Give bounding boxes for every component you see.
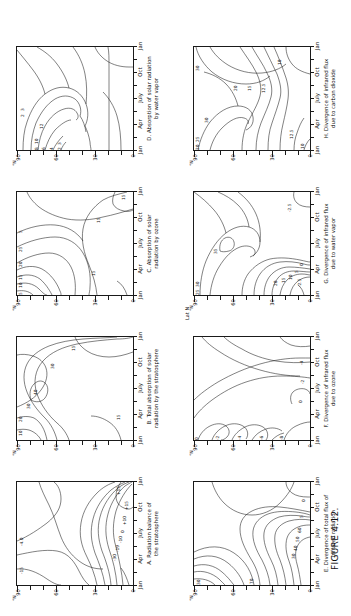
panel-c-xlabel-july: July — [137, 234, 143, 252]
panel-b-contours — [17, 337, 133, 440]
panel-c-title: C. Absorption of solar radiation by ozon… — [146, 190, 160, 297]
panel-g-contour-label-7: 20 — [273, 281, 278, 286]
panel-f-contour-label-7: -4 — [299, 361, 304, 365]
panel-e-plot — [193, 481, 311, 586]
panel-e-xlabel-jan1: Jan — [314, 576, 320, 594]
panel-c-contour-label-6: 15 — [91, 271, 96, 276]
panel-e-contour-label-5: 30 — [196, 580, 201, 585]
panel-f-xlabel-oct: Oct — [314, 353, 320, 371]
panel-e-contour-label-3: 60 — [297, 528, 302, 533]
panel-c-contour-label-7: 15 — [96, 218, 101, 223]
panel-g-contour-label-5: 10 — [288, 275, 293, 280]
panel-h-contour-label-6: 12.5 — [261, 83, 266, 93]
panel-b-title: B. Total absorption of solar radiation b… — [146, 328, 160, 449]
panel-d-contour-label-8: 3 — [20, 108, 25, 111]
panel-c-plot — [16, 191, 134, 296]
panel-b-ylabel-90: 90 — [15, 444, 21, 457]
panel-e-xlabel-apr: Apr — [314, 550, 320, 568]
panel-g-xlabel-oct: Oct — [314, 208, 320, 226]
panel-c-contour-label-1: 10 — [18, 283, 23, 288]
panel-d-contour-label-2: 4 — [49, 147, 54, 150]
panel-d-contour-label-0: 2 — [57, 147, 62, 150]
panel-d-contour-label-3: 6 — [41, 147, 46, 150]
panel-b-contour-label-2: 30 — [26, 404, 31, 409]
panel-h-contour-label-8: 12.5 — [289, 129, 294, 139]
panel-a-ylabel-90: 90 — [15, 589, 21, 602]
panel-e-ylabel-90: 90 — [192, 589, 198, 602]
panel-a-xlabel-july: July — [137, 524, 143, 542]
panel-f-xlabel-july: July — [314, 379, 320, 397]
panel-e-contour-label-0: 30 — [291, 554, 296, 559]
panel-g-contour-label-1: 30 — [195, 282, 200, 287]
panel-g-contour-label-8: -2.5 — [297, 279, 302, 287]
panel-h-contour-label-7: 10 — [277, 60, 282, 65]
panel-g-contour-label-4: 5 — [294, 270, 299, 273]
panel-h-contour-label-9: 10 — [300, 144, 305, 149]
panel-h-contour-label-4: 20 — [233, 86, 238, 91]
panel-a-xlabel-apr: Apr — [137, 550, 143, 568]
panel-a-xlabel-jan1: Jan — [137, 576, 143, 594]
panel-a-contour-label-4: -10 — [118, 536, 123, 543]
panel-f-xlabel-jan2: Jan — [314, 327, 320, 345]
panel-f-contour-label-3: -6 — [259, 436, 264, 440]
panel-b-xlabel-jan1: Jan — [137, 431, 143, 449]
panel-a-contour-label-1: -4.0 — [19, 538, 24, 546]
panel-c-xlabel-apr: Apr — [137, 260, 143, 278]
panel-d-title: D. Absorption of solar radiation by wate… — [146, 36, 160, 161]
panel-c-xlabel-jan2: Jan — [137, 182, 143, 200]
panel-g-ylabel-90: 90 — [192, 299, 198, 312]
panel-h-xlabel-jan1: Jan — [314, 141, 320, 159]
panel-g-xlabel-july: July — [314, 234, 320, 252]
panel-b-contour-label-5: 15 — [116, 415, 121, 420]
panel-e-xlabel-jan2: Jan — [314, 472, 320, 490]
panel-f-contour-label-4: -8 — [279, 436, 284, 440]
panel-g-contour-label-0: 25 — [195, 290, 200, 295]
panel-h-contour-label-3: 30 — [195, 66, 200, 71]
panel-c-xlabel-jan1: Jan — [137, 286, 143, 304]
panel-a-contour-label-2: -30 — [112, 554, 117, 561]
panel-a-title: A. Radiation balance of the stratosphere — [146, 475, 160, 592]
panel-f-contour-label-1: -2 — [215, 436, 220, 440]
panel-g-lat-n-label: Lat N — [184, 307, 190, 320]
panel-h-contour-label-5: 15 — [247, 86, 252, 91]
panel-a-contour-label-0: -15 — [19, 567, 24, 574]
panel-d-xlabel-jan1: Jan — [137, 141, 143, 159]
panel-d-contour-label-7: 2 — [20, 114, 25, 117]
panel-d-contour-label-6: 12 — [39, 124, 44, 129]
panel-e-xlabel-oct: Oct — [314, 498, 320, 516]
panel-h-ylabel-90: 90 — [192, 154, 198, 167]
panel-g-contour-label-9: -2.5 — [287, 204, 292, 212]
panel-b-contour-label-1: 20 — [18, 417, 23, 422]
panel-g-title: G. Divergence of infrared flux due to wa… — [323, 183, 337, 304]
panel-b-contour-label-6: 15 — [71, 346, 76, 351]
panel-d-ylabel-90: 90 — [15, 154, 21, 167]
panel-h-title: H. Divergence of infrared flux due to ca… — [323, 38, 337, 159]
panel-g-contour-label-3: 0 — [299, 263, 304, 266]
figure-rotated-stage: °N 90 60 30 0 — [0, 0, 351, 616]
panel-b-contour-label-4: 30 — [50, 364, 55, 369]
panel-f-plot — [193, 336, 311, 441]
panel-h-xlabel-july: July — [314, 89, 320, 107]
panel-a-plot — [16, 481, 134, 586]
panel-d-xlabel-oct: Oct — [137, 63, 143, 81]
panel-f-title: F. Divergence of infrared flux due to oz… — [323, 328, 337, 449]
panel-c-contour-label-0: 5 — [18, 292, 23, 295]
panel-e-contour-label-1: 40 — [293, 546, 298, 551]
panel-f-contour-label-0: 0 — [194, 437, 199, 440]
panel-f-xlabel-apr: Apr — [314, 405, 320, 423]
panel-g-plot — [193, 191, 311, 296]
figure-page: °N 90 60 30 0 — [0, 0, 351, 616]
panel-f-contours — [194, 337, 310, 440]
panel-b-xlabel-july: July — [137, 379, 143, 397]
panel-c-xlabel-oct: Oct — [137, 208, 143, 226]
panel-a-contours — [17, 482, 133, 585]
panel-d-xlabel-jan2: Jan — [137, 37, 143, 55]
panel-c-contour-label-3: 20 — [18, 262, 23, 267]
panel-c-contour-label-8: 15 — [121, 195, 126, 200]
panel-a-contour-label-6: +10 — [122, 516, 127, 525]
panel-b-plot — [16, 336, 134, 441]
panel-d-xlabel-july: July — [137, 89, 143, 107]
panel-h-contour-label-0: 20 — [195, 145, 200, 150]
panel-d-contour-label-5: 10 — [34, 139, 39, 144]
panel-c-ylabel-90: 90 — [15, 299, 21, 312]
